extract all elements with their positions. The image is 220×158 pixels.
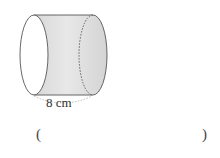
answer-open-paren: ( xyxy=(36,126,41,143)
length-label: 8 cm xyxy=(46,95,72,111)
answer-blank[interactable] xyxy=(48,128,198,146)
cylinder-left-face xyxy=(20,15,48,95)
answer-close-paren: ) xyxy=(202,126,207,143)
cylinder-figure xyxy=(0,0,150,110)
